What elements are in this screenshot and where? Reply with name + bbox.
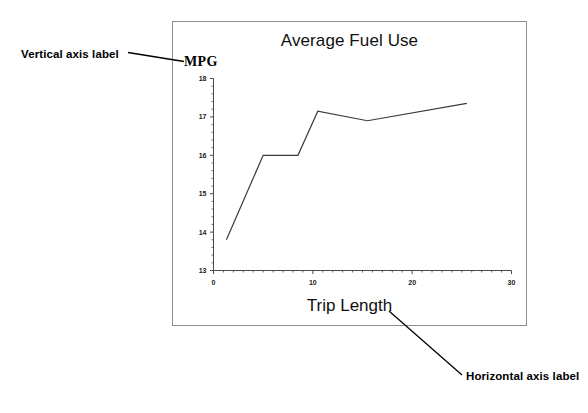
plot-area: 131415161718 0102030 (172, 21, 527, 326)
x-tick-marks (214, 271, 512, 275)
data-series-group (226, 103, 466, 239)
y-tick-label: 16 (199, 152, 207, 159)
y-tick-label: 18 (199, 75, 207, 82)
vertical-axis-callout-label: Vertical axis label (21, 48, 119, 60)
screenshot-canvas: Average Fuel Use MPG Trip Length 1314151… (0, 0, 588, 413)
x-tick-label: 0 (212, 279, 216, 286)
y-tick-labels: 131415161718 (199, 75, 207, 274)
y-tick-label: 13 (199, 267, 207, 274)
horizontal-axis-callout-label: Horizontal axis label (466, 370, 579, 382)
y-tick-marks (210, 79, 214, 271)
axes-group (214, 79, 512, 271)
x-tick-label: 10 (309, 279, 317, 286)
x-tick-label: 20 (408, 279, 416, 286)
y-tick-label: 14 (199, 229, 207, 236)
y-tick-label: 17 (199, 113, 207, 120)
y-tick-label: 15 (199, 190, 207, 197)
x-tick-label: 30 (508, 279, 516, 286)
data-line-average-fuel-use (226, 103, 466, 239)
x-tick-labels: 0102030 (212, 279, 516, 286)
